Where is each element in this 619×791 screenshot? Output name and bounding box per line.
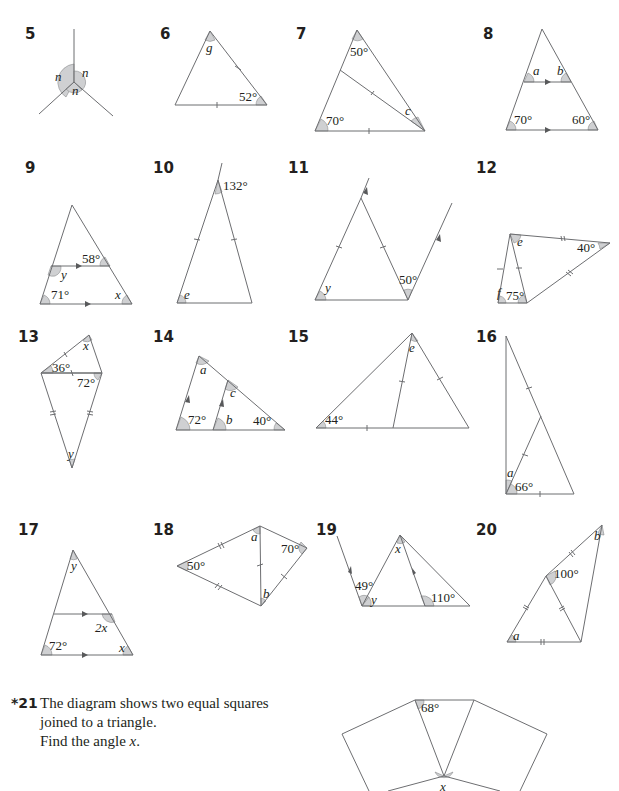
label-36: 36° (52, 360, 70, 375)
label-72: 72° (77, 375, 95, 390)
label-a: a (200, 362, 207, 377)
label-b: b (263, 586, 270, 601)
figure-q18: a 70° 50° b (177, 526, 307, 606)
figure-q21: 68° x (342, 700, 547, 791)
label-n: n (82, 65, 89, 80)
q21-line-1: The diagram shows two equal squares (40, 694, 269, 713)
figure-q8: a b 70° 60° (506, 29, 598, 133)
label-50: 50° (399, 272, 417, 287)
label-y: y (369, 592, 377, 607)
label-x: x (118, 640, 125, 655)
q21-line-2: joined to a triangle. (40, 713, 269, 732)
label-66: 66° (515, 479, 533, 494)
figure-q20: b 100° a (507, 525, 604, 645)
figure-q13: x 36° 72° y (41, 335, 102, 468)
q21-line-3-prefix: Find the angle (40, 733, 130, 749)
label-50: 50° (350, 44, 368, 59)
label-c: c (405, 103, 411, 118)
label-a: a (507, 465, 514, 480)
figure-q11: y 50° (315, 178, 452, 300)
label-g: g (206, 40, 213, 55)
label-2x: 2x (95, 620, 108, 635)
label-44: 44° (325, 412, 343, 427)
question-number-21: *21 (11, 694, 38, 713)
label-110: 110° (431, 590, 455, 605)
label-b: b (226, 412, 233, 427)
figure-q10: 132° e (177, 163, 252, 303)
figure-q15: e 44° (316, 333, 469, 431)
label-x: x (394, 541, 401, 556)
worksheet-figures: n n n g 52° 50° 70° c a b 70° (0, 0, 619, 791)
label-70: 70° (326, 113, 344, 128)
label-40: 40° (253, 413, 271, 428)
label-y: y (66, 446, 74, 461)
label-71: 71° (51, 287, 69, 302)
label-e: e (184, 287, 190, 302)
label-50: 50° (187, 558, 205, 573)
figure-q12: e 40° f 75° (497, 234, 610, 303)
label-y: y (323, 280, 331, 295)
figure-q14: a c 72° b 40° (176, 356, 285, 430)
label-y: y (69, 558, 77, 573)
label-75: 75° (506, 288, 524, 303)
label-70: 70° (514, 112, 532, 127)
label-52: 52° (239, 89, 257, 104)
figure-q17: y 2x 72° x (41, 550, 133, 658)
label-60: 60° (572, 112, 590, 127)
label-x: x (439, 779, 446, 791)
question-21-text: *21 The diagram shows two equal squares … (40, 694, 269, 751)
label-58: 58° (82, 251, 100, 266)
figure-q5: n n n (39, 29, 113, 116)
label-n: n (55, 69, 62, 84)
label-b: b (557, 63, 564, 78)
label-e: e (409, 340, 415, 355)
q21-line-3: Find the angle x. (40, 732, 269, 751)
label-x: x (82, 338, 89, 353)
label-e: e (517, 234, 523, 249)
label-a: a (533, 63, 540, 78)
label-a: a (513, 628, 520, 643)
figure-q9: 58° y 71° x (40, 205, 132, 307)
label-y: y (59, 267, 67, 282)
label-c: c (230, 385, 236, 400)
label-132: 132° (223, 178, 248, 193)
label-100: 100° (554, 566, 579, 581)
figure-q7: 50° 70° c (315, 30, 425, 134)
label-x: x (114, 287, 121, 302)
label-40: 40° (577, 240, 595, 255)
figure-q16: a 66° (506, 336, 574, 497)
figure-q19: x 49° y 110° (337, 535, 470, 607)
q21-line-3-suffix: . (136, 733, 140, 749)
label-a: a (251, 529, 258, 544)
label-68: 68° (421, 700, 439, 715)
label-n: n (72, 83, 79, 98)
label-49: 49° (355, 578, 373, 593)
label-72: 72° (49, 638, 67, 653)
label-70: 70° (281, 541, 299, 556)
label-b: b (594, 528, 601, 543)
figure-q6: g 52° (175, 31, 267, 108)
label-72: 72° (188, 412, 206, 427)
